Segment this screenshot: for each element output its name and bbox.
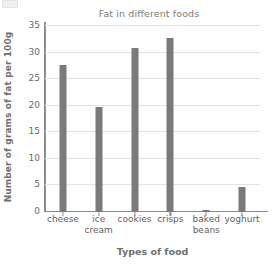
chart-screenshot: Fat in different foods Number of grams o…	[0, 0, 274, 266]
y-axis-tick-label: 5	[34, 179, 40, 189]
x-axis-tick-label: cookies	[117, 214, 153, 236]
bar-slot	[81, 26, 117, 212]
x-axis-tick-label-line: crisps	[152, 214, 188, 225]
x-axis-title: Types of food	[45, 246, 260, 257]
bar	[95, 107, 102, 212]
x-axis-tick-label: yoghurt	[224, 214, 260, 236]
bar-slot	[188, 26, 224, 212]
x-axis-tick-label-line: beans	[188, 225, 224, 236]
x-axis-tick-label-line: yoghurt	[224, 214, 260, 225]
bar	[131, 48, 138, 212]
x-axis-tick-label-line: cream	[81, 225, 117, 236]
x-axis-tick-label: cheese	[45, 214, 81, 236]
y-axis-tick-label: 15	[29, 126, 40, 136]
y-axis-tick-label: 20	[29, 100, 40, 110]
x-axis-tick-label: icecream	[81, 214, 117, 236]
bar-slot	[45, 26, 81, 212]
y-axis-tick-label: 10	[29, 153, 40, 163]
x-axis-tick-label-line: cookies	[117, 214, 153, 225]
bar-slot	[117, 26, 153, 212]
bar-series	[45, 26, 260, 212]
x-axis-tick-label-line: baked	[188, 214, 224, 225]
y-axis-title-container: Number of grams of fat per 100g	[0, 22, 16, 212]
scan-artifact	[2, 0, 18, 8]
plot-area: 05101520253035	[45, 26, 260, 212]
y-axis-tick-label: 0	[34, 206, 40, 216]
bar	[239, 187, 246, 212]
bar	[167, 38, 174, 212]
plot-inner: 05101520253035	[45, 26, 260, 212]
y-axis-title: Number of grams of fat per 100g	[3, 32, 13, 203]
y-axis-tick-label: 35	[29, 20, 40, 30]
x-axis-tick-label: bakedbeans	[188, 214, 224, 236]
x-axis-tick-labels: cheeseicecreamcookiescrispsbakedbeansyog…	[45, 214, 260, 236]
y-axis-tick-label: 25	[29, 73, 40, 83]
bar-slot	[152, 26, 188, 212]
y-axis-tick-label: 30	[29, 47, 40, 57]
x-axis-tick-label-line: cheese	[45, 214, 81, 225]
x-axis-tick-label: crisps	[152, 214, 188, 236]
chart-title: Fat in different foods	[34, 8, 264, 19]
bar-slot	[224, 26, 260, 212]
bar	[59, 65, 66, 212]
x-axis-tick-label-line: ice	[81, 214, 117, 225]
